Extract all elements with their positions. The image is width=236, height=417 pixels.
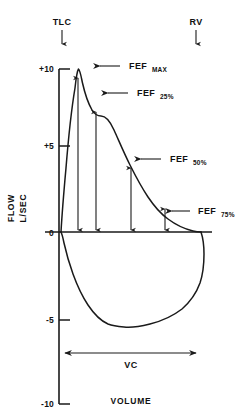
fef-50-subscript: 50% xyxy=(193,159,207,166)
x-axis-title: VOLUME xyxy=(110,396,151,406)
tlc-marker: TLC xyxy=(53,17,72,44)
vc-span: VC xyxy=(65,353,196,370)
fef-max-label: FEF xyxy=(129,61,147,71)
tlc-label: TLC xyxy=(53,17,72,27)
fef-max-annotation: FEF MAX xyxy=(100,61,168,73)
fef-75-label: FEF xyxy=(198,206,216,216)
y-tick-label-plus10: +10 xyxy=(39,64,54,74)
y-tick-label-minus10: -10 xyxy=(41,399,54,409)
y-tick-label-plus5: +5 xyxy=(44,141,54,151)
fef-75-annotation: FEF 75% xyxy=(172,206,235,218)
y-axis-title-line2: L/SEC xyxy=(18,193,28,222)
y-axis-title-line1: FLOW xyxy=(6,194,16,222)
y-tick-label-minus5: -5 xyxy=(46,315,54,325)
y-axis-title: FLOW L/SEC xyxy=(6,193,28,222)
inspiratory-limb-curve xyxy=(61,232,204,327)
fef-max-subscript: MAX xyxy=(152,66,168,73)
vc-label: VC xyxy=(124,360,137,370)
y-tick-label-zero: 0 xyxy=(49,228,54,238)
fef-25-label: FEF xyxy=(137,88,155,98)
y-axis: +10 +5 0 -5 -10 xyxy=(39,64,70,409)
rv-marker: RV xyxy=(189,17,202,44)
fef-25-subscript: 25% xyxy=(160,93,174,100)
rv-label: RV xyxy=(189,17,202,27)
fef-25-annotation: FEF 25% xyxy=(108,88,174,100)
fef-75-subscript: 75% xyxy=(221,211,235,218)
flow-volume-loop-figure: TLC RV +10 +5 0 -5 -10 FLOW L/SEC xyxy=(0,0,236,417)
flow-volume-chart-svg: TLC RV +10 +5 0 -5 -10 FLOW L/SEC xyxy=(0,0,236,417)
fef-50-annotation: FEF 50% xyxy=(141,154,207,166)
fef-50-label: FEF xyxy=(170,154,188,164)
